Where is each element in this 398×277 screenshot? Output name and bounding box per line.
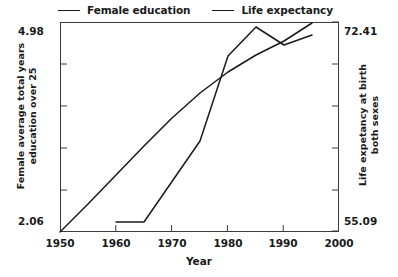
left-axis-title-line2: education over 25 bbox=[27, 36, 39, 196]
x-axis-title: Year bbox=[0, 255, 398, 267]
legend-line-swatch-life-expectancy bbox=[212, 10, 234, 11]
chart-figure: Female education Life expectancy bbox=[0, 0, 398, 277]
legend-item-female-education: Female education bbox=[58, 4, 190, 16]
x-tick-label-2000: 2000 bbox=[324, 237, 353, 249]
right-axis-ticks bbox=[332, 22, 339, 231]
legend-label-female-education: Female education bbox=[87, 4, 190, 16]
x-tick-label-1960: 1960 bbox=[101, 237, 130, 249]
x-axis-ticks bbox=[116, 225, 283, 232]
legend-label-life-expectancy: Life expectancy bbox=[241, 4, 333, 16]
left-axis-title-line1: Female average total years bbox=[15, 36, 27, 196]
left-axis-min-label: 2.06 bbox=[18, 215, 44, 227]
left-axis-title: Female average total years education ove… bbox=[15, 36, 39, 196]
series-line-life-expectancy bbox=[60, 23, 312, 232]
x-tick-label-1980: 1980 bbox=[213, 237, 242, 249]
right-axis-title: Life expetancy at birth both sexes bbox=[357, 45, 381, 205]
legend-item-life-expectancy: Life expectancy bbox=[212, 4, 333, 16]
plot-canvas bbox=[60, 22, 339, 232]
left-axis-ticks bbox=[60, 64, 67, 190]
x-tick-label-1950: 1950 bbox=[45, 237, 74, 249]
right-axis-title-line2: both sexes bbox=[369, 45, 381, 205]
right-axis-min-label: 55.09 bbox=[344, 215, 377, 227]
right-axis-title-line1: Life expetancy at birth bbox=[357, 45, 369, 205]
chart-legend: Female education Life expectancy bbox=[58, 0, 333, 20]
series-line-female-education bbox=[116, 27, 312, 222]
right-axis-max-label: 72.41 bbox=[344, 25, 377, 37]
legend-line-swatch-female-education bbox=[58, 10, 80, 11]
x-tick-label-1970: 1970 bbox=[157, 237, 186, 249]
x-tick-label-1990: 1990 bbox=[268, 237, 297, 249]
